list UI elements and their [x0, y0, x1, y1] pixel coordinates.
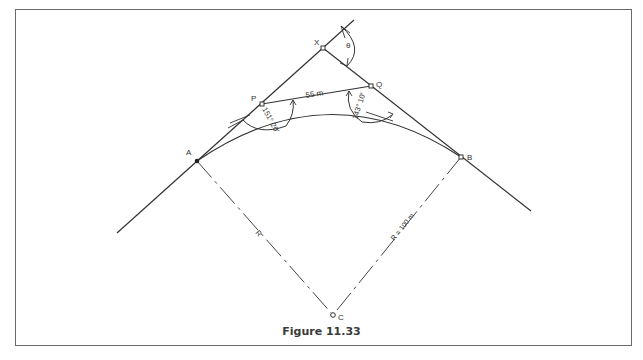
point-a — [195, 159, 200, 164]
curve-diagram: A B C P Q X θ 55 m 151° 20′ 143° 10′ R R… — [0, 0, 643, 360]
label-b: B — [467, 153, 472, 162]
tangent-line-right — [323, 48, 531, 211]
radius-line-left — [197, 161, 333, 315]
tangent-line-left — [117, 20, 354, 233]
label-a: A — [186, 148, 192, 157]
label-x: X — [314, 38, 320, 47]
point-b — [459, 155, 463, 159]
point-x — [321, 46, 325, 50]
label-q: Q — [376, 80, 382, 89]
figure-caption: Figure 11.33 — [0, 325, 643, 338]
label-c: C — [338, 313, 344, 322]
circular-curve — [197, 114, 461, 161]
label-chord-pq: 55 m — [305, 88, 324, 100]
label-angle-q: 143° 10′ — [350, 91, 367, 120]
label-p: P — [251, 94, 256, 103]
point-p — [260, 102, 264, 106]
label-radius-right: R = 100 m — [389, 212, 415, 242]
label-theta: θ — [346, 41, 351, 50]
label-radius-left: R — [254, 228, 265, 238]
point-q — [369, 84, 373, 88]
label-angle-p: 151° 20′ — [260, 106, 281, 135]
point-c — [331, 313, 336, 318]
